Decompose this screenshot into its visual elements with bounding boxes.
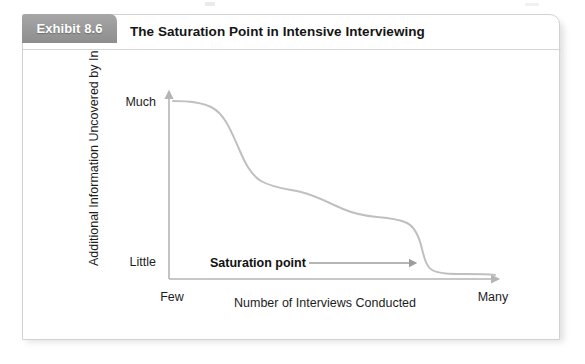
chart-plot-area: Additional Information Uncovered by Inte… [25, 51, 559, 339]
scan-artifact-secondary [525, 3, 539, 6]
saturation-point-label: Saturation point [210, 256, 307, 270]
x-axis-title: Number of Interviews Conducted [234, 296, 416, 310]
saturation-curve-chart: Additional Information Uncovered by Inte… [25, 51, 559, 339]
x-tick-label-many: Many [478, 290, 509, 304]
y-tick-label-little: Little [130, 255, 156, 269]
exhibit-title: The Saturation Point in Intensive Interv… [130, 24, 425, 39]
exhibit-number-tab: Exhibit 8.6 [22, 14, 117, 43]
y-tick-label-much: Much [125, 95, 156, 109]
header-divider [23, 49, 561, 50]
screenshot-stage: Exhibit 8.6 The Saturation Point in Inte… [0, 0, 585, 364]
saturation-curve [173, 101, 495, 275]
exhibit-card: Exhibit 8.6 The Saturation Point in Inte… [22, 14, 560, 340]
exhibit-number-label: Exhibit 8.6 [22, 14, 117, 43]
x-tick-label-few: Few [160, 290, 185, 304]
scan-artifact [205, 2, 215, 6]
exhibit-header: Exhibit 8.6 The Saturation Point in Inte… [23, 15, 559, 50]
y-axis-title: Additional Information Uncovered by Inte… [87, 51, 101, 266]
